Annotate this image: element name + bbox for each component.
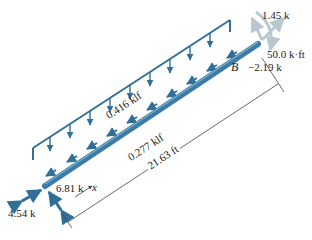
label-force-a-left: 4.54 k — [8, 208, 36, 219]
beam-diagram — [0, 0, 312, 240]
distributed-load-frame — [33, 20, 230, 160]
axial-load-arrows — [46, 52, 237, 176]
label-force-b-top: 1.45 k — [262, 10, 290, 21]
label-force-b-axial: −2.19 k — [248, 62, 282, 73]
label-axis-x: x — [92, 182, 97, 193]
label-moment-b: 50.0 k·ft — [267, 49, 305, 60]
label-force-a-perp: 6.81 k — [56, 183, 84, 194]
label-end-b: B — [231, 61, 238, 73]
